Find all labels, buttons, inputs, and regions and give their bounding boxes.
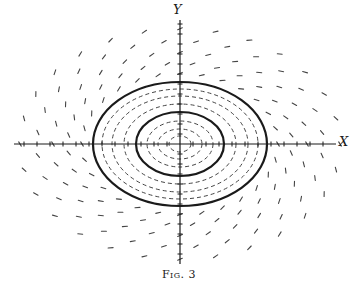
direction-field-dash <box>206 232 210 235</box>
direction-field-dash <box>131 45 135 48</box>
direction-field-dash <box>76 216 81 217</box>
direction-field-dash <box>101 187 106 188</box>
direction-field-dash <box>149 233 154 234</box>
direction-field-dash <box>254 99 259 100</box>
direction-field-dash <box>277 86 282 87</box>
direction-field-dash <box>54 163 58 166</box>
direction-field-dash <box>162 41 166 43</box>
direction-field-dash <box>80 85 82 90</box>
direction-field-dash <box>199 75 204 76</box>
direction-field-dash <box>279 71 284 72</box>
direction-field-dash <box>90 173 94 175</box>
x-axis-label: X <box>339 134 348 149</box>
direction-field-dash <box>303 72 308 73</box>
y-axis-label: Y <box>173 2 182 17</box>
direction-field-dash <box>67 151 70 155</box>
direction-field-dash <box>213 31 218 32</box>
direction-field-dash <box>100 70 103 74</box>
direction-field-dash <box>109 38 113 42</box>
direction-field-dash <box>23 116 24 121</box>
direction-field-dash <box>258 199 260 204</box>
figure-caption: Fig. 3 <box>0 268 358 281</box>
direction-field-dash <box>118 87 121 91</box>
direction-field-dash <box>119 74 122 78</box>
direction-field-dash <box>292 103 296 105</box>
direction-field-dash <box>130 241 135 242</box>
direction-field-dash <box>190 63 195 65</box>
direction-field-dash <box>194 41 199 43</box>
coordinate-axes <box>14 20 336 264</box>
direction-field-dash <box>225 46 230 47</box>
direction-field-dash <box>248 246 252 250</box>
direction-field-dash <box>335 167 336 172</box>
direction-field-dash <box>321 131 324 135</box>
direction-field-dash <box>165 63 169 66</box>
direction-field-dash <box>206 54 211 55</box>
direction-field-dash <box>299 88 304 90</box>
direction-field-dash <box>54 70 56 75</box>
direction-field-dash <box>225 240 229 243</box>
direction-field-dash <box>74 115 75 120</box>
direction-field-dash <box>274 127 278 130</box>
direction-field-dash <box>98 201 103 202</box>
direction-field-dash <box>302 122 306 125</box>
direction-field-dash <box>150 53 154 56</box>
direction-field-dash <box>156 212 161 213</box>
direction-field-dash <box>313 109 317 112</box>
phase-portrait-figure <box>0 0 358 288</box>
direction-field-dash <box>304 213 306 218</box>
direction-field-dash <box>273 100 278 102</box>
direction-field-dash <box>136 79 140 83</box>
direction-field-dash <box>34 193 38 195</box>
direction-field-dash <box>275 157 276 162</box>
direction-field-dash <box>56 121 57 126</box>
direction-field-dash <box>257 87 262 88</box>
direction-field-dash <box>103 98 105 103</box>
direction-field-dash <box>215 219 219 222</box>
direction-field-dash <box>240 197 243 201</box>
direction-field-dash <box>53 215 58 216</box>
direction-field-dash <box>141 220 146 221</box>
direction-field-dash <box>142 30 146 33</box>
direction-field-dash <box>303 162 304 167</box>
direction-field-dash <box>258 213 261 217</box>
direction-field-dash <box>156 74 160 77</box>
direction-field-dash <box>194 245 198 247</box>
direction-field-dash <box>68 133 70 138</box>
direction-field-dash <box>45 108 46 113</box>
direction-field-dash <box>284 116 288 119</box>
direction-field-dash <box>83 158 87 161</box>
direction-field-dash <box>256 186 258 191</box>
direction-field-dash <box>162 246 167 248</box>
direction-field-dash <box>285 168 286 173</box>
direction-field-dash <box>277 54 282 55</box>
direction-field-dash <box>78 200 83 201</box>
direction-field-dash <box>274 184 275 189</box>
direction-field-dash <box>36 154 39 158</box>
direction-field-dash <box>102 55 105 59</box>
direction-field-dash <box>321 153 323 158</box>
direction-field-dash <box>200 211 204 214</box>
direction-field-dash <box>84 126 85 131</box>
direction-field-dash <box>255 229 258 233</box>
direction-field-dash <box>116 199 121 200</box>
direction-field-dash <box>266 112 270 114</box>
direction-field-dash <box>280 215 282 220</box>
direction-field-dash <box>239 89 244 90</box>
direction-field-dash <box>78 69 80 74</box>
direction-field-dash <box>301 196 302 201</box>
direction-field-dash <box>190 223 194 226</box>
direction-field-dash <box>233 225 237 229</box>
direction-field-dash <box>78 234 83 235</box>
direction-field-dash <box>123 60 127 64</box>
direction-field-dash <box>57 198 62 200</box>
direction-field-dash <box>85 99 86 104</box>
direction-field-dash <box>59 87 60 92</box>
direction-field-dash <box>279 199 281 204</box>
direction-field-dash <box>37 130 39 135</box>
direction-field-dash <box>290 151 292 156</box>
direction-field-dash <box>278 232 281 236</box>
direction-field-dash <box>22 168 26 171</box>
direction-field-dash <box>142 256 147 257</box>
direction-field-dash <box>322 93 326 95</box>
